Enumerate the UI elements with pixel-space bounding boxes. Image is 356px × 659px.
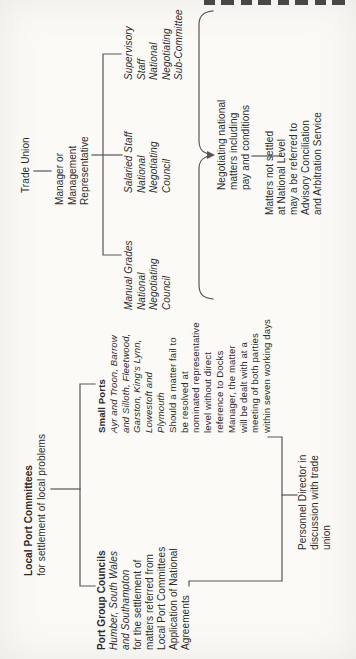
small-ports-label: Small Ports Ayr and Troon, Barrow and Si… (96, 319, 273, 433)
local-port-committees-label: Local Port Committees for settlement of … (23, 434, 48, 576)
small-ports-heading: Small Ports (96, 319, 108, 433)
brace-left-half (199, 155, 213, 299)
negotiating-national-matters-label: Negotiating national matters including p… (216, 100, 252, 190)
port-group-councils-heading: Port Group Councils (96, 547, 108, 650)
trade-union-text: Trade Union (20, 137, 33, 193)
local-port-committees-subtext: for settlement of local problems (36, 434, 49, 576)
org-chart-rotated: Trade Union Manager or Management Repres… (0, 0, 356, 659)
trade-union-label: Trade Union (20, 137, 33, 193)
brace-arrowhead (207, 151, 215, 159)
brace-right-half (199, 11, 213, 155)
personnel-director-label: Personnel Director in discussion with tr… (297, 455, 333, 550)
salaried-staff-council-label: Salaried Staff National Negotiating Coun… (123, 132, 173, 193)
manager-representative-label: Manager or Management Representative (54, 136, 92, 205)
supervisory-subcommittee-label: Supervisory Staff National Negotiating S… (123, 9, 186, 80)
lower-rail-line (189, 437, 282, 586)
local-rail-line (80, 384, 95, 586)
matters-not-settled-label: Matters not settled at National Level ma… (264, 112, 324, 215)
port-group-councils-label: Port Group Councils Humber, South Wales … (96, 547, 192, 650)
local-port-committees-heading: Local Port Committees (23, 434, 36, 576)
scanned-page: Trade Union Manager or Management Repres… (0, 0, 356, 659)
manual-grades-council-label: Manual Grades National Negotiating Counc… (123, 240, 173, 310)
